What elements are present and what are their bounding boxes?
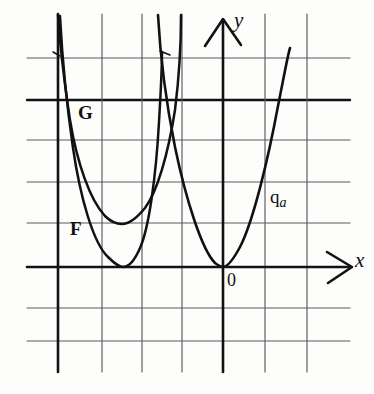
curve-g [58,15,181,224]
origin-label: 0 [227,270,236,291]
pen-tick-marks [53,51,170,56]
x-axis [27,252,352,283]
curve-label-qa-base: q [270,186,280,207]
y-axis [205,19,241,372]
curve-label-qa: qa [270,186,287,211]
curve-label-qa-subscript: a [280,195,287,210]
graph-canvas [0,0,374,394]
curve-label-f: F [70,218,82,240]
y-axis-label: y [234,8,243,33]
parabolas-figure: F G qa 0 x y [0,0,374,394]
x-axis-label: x [355,248,364,273]
curve-label-g: G [78,102,93,124]
